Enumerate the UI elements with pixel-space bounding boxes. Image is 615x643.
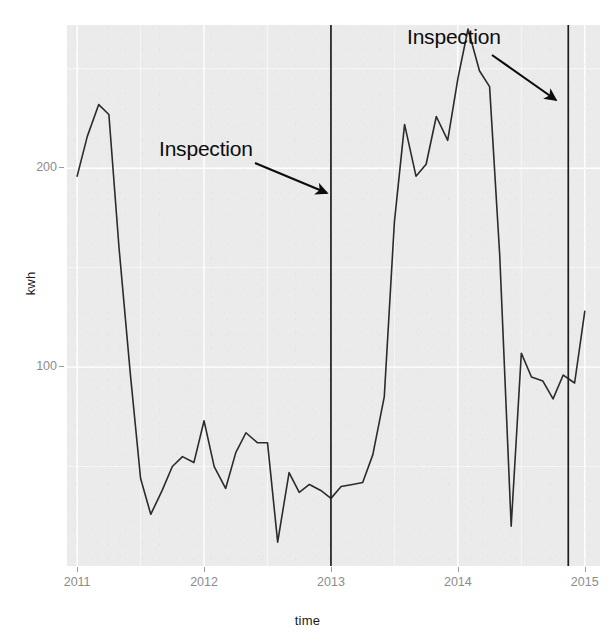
- x-axis-tick-2012: 2012: [169, 573, 239, 589]
- x-axis-tick-label: 2011: [42, 575, 112, 589]
- x-axis-tick-mark: [458, 567, 459, 572]
- y-axis-tick-100: 100: [0, 359, 57, 375]
- y-axis-tick-label: 100: [11, 359, 57, 373]
- data-series-kwh: [77, 29, 585, 542]
- chart-container: kwh time 100200 20112012201320142015 Ins…: [0, 0, 615, 643]
- x-axis-tick-mark: [77, 567, 78, 572]
- x-axis-tick-mark: [204, 567, 205, 572]
- x-axis-tick-2015: 2015: [550, 573, 615, 589]
- plot-panel-background: [67, 25, 600, 566]
- y-axis-title: kwh: [23, 264, 38, 304]
- x-axis-title: time: [0, 613, 615, 628]
- x-axis-tick-2013: 2013: [296, 573, 366, 589]
- annotation-arrow-0: [255, 163, 327, 193]
- x-axis-tick-mark: [585, 567, 586, 572]
- plot-area: [0, 0, 615, 643]
- x-axis-tick-mark: [331, 567, 332, 572]
- x-axis-tick-label: 2014: [423, 575, 493, 589]
- y-axis-tick-mark: [59, 366, 64, 367]
- x-axis-tick-label: 2013: [296, 575, 366, 589]
- y-axis-tick-label: 200: [11, 160, 57, 174]
- x-axis-tick-label: 2015: [550, 575, 615, 589]
- x-axis-tick-label: 2012: [169, 575, 239, 589]
- x-axis-tick-2014: 2014: [423, 573, 493, 589]
- y-axis-tick-mark: [59, 167, 64, 168]
- x-axis-tick-2011: 2011: [42, 573, 112, 589]
- annotation-arrow-1: [492, 55, 556, 100]
- y-axis-tick-200: 200: [0, 160, 57, 176]
- paper-texture: [67, 25, 600, 566]
- annotation-label-inspection-2: Inspection: [407, 25, 501, 49]
- annotation-label-inspection-1: Inspection: [159, 137, 253, 161]
